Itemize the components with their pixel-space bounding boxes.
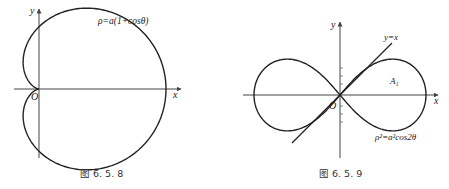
curve-equation-label: ρ=a(1+cosθ)	[97, 16, 149, 27]
y-axis-label: y	[29, 5, 35, 16]
figure-lemniscate: y x O y=x A₁ ρ²=a²cos2θ 图 6. 5. 9	[243, 19, 439, 179]
figure-caption: 图 6. 5. 8	[80, 168, 123, 179]
y-axis-label: y	[330, 19, 336, 30]
origin-label: O	[31, 91, 38, 102]
figure-caption: 图 6. 5. 9	[319, 168, 362, 179]
x-axis-label: x	[172, 89, 178, 100]
region-label: A₁	[389, 76, 399, 86]
curve-equation-label: ρ²=a²cos2θ	[374, 132, 417, 142]
x-axis-label: x	[433, 95, 439, 106]
figures-canvas: y x O ρ=a(1+cosθ) 图 6. 5. 8 y x O y=x A₁…	[0, 0, 449, 189]
origin-label: O	[329, 100, 336, 111]
line-equation-label: y=x	[383, 32, 398, 42]
figure-cardioid: y x O ρ=a(1+cosθ) 图 6. 5. 8	[14, 5, 181, 179]
